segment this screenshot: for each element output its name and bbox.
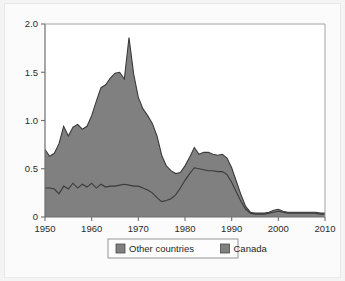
x-tick-label: 1950 (34, 223, 55, 234)
x-tick-label: 1970 (128, 223, 149, 234)
y-tick-label: 1.5 (25, 67, 38, 78)
x-tick-label: 1980 (174, 223, 195, 234)
area-chart: 00.51.01.52.0 19501960197019801990200020… (0, 0, 345, 281)
y-tick-label: 0.5 (25, 163, 38, 174)
x-axis-ticks (45, 217, 325, 221)
chart-screenshot: 00.51.01.52.0 19501960197019801990200020… (0, 0, 345, 281)
x-tick-label: 2010 (314, 223, 335, 234)
chart-legend: Other countriesCanada (108, 239, 267, 258)
x-tick-label: 1960 (81, 223, 102, 234)
legend-label: Other countries (129, 243, 194, 254)
legend-label: Canada (234, 243, 268, 254)
y-tick-label: 0 (33, 211, 38, 222)
x-tick-label: 1990 (221, 223, 242, 234)
legend-swatch (116, 244, 125, 253)
y-tick-label: 2.0 (25, 18, 38, 29)
y-tick-label: 1.0 (25, 115, 38, 126)
x-axis-tick-labels: 1950196019701980199020002010 (34, 223, 335, 234)
legend-swatch (221, 244, 230, 253)
y-axis-tick-labels: 00.51.01.52.0 (25, 18, 38, 222)
x-tick-label: 2000 (268, 223, 289, 234)
